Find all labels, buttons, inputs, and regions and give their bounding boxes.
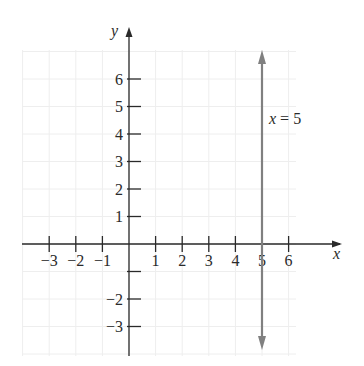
x-axis-label: x (332, 245, 340, 262)
x-tick-label: 6 (285, 252, 293, 269)
line-label: x = 5 (268, 110, 301, 127)
ticks (49, 79, 288, 327)
y-tick-label: 2 (115, 181, 123, 198)
x-tick-label: −1 (94, 252, 111, 269)
coordinate-plane: −3−2−1123456−3−2123456 y x x = 5 (0, 0, 364, 366)
series-vertical-line (258, 50, 266, 350)
x-tick-label: −2 (67, 252, 84, 269)
arrow-up-icon (258, 50, 266, 64)
y-tick-label: 6 (115, 71, 123, 88)
y-axis-label: y (109, 22, 119, 40)
tick-labels: −3−2−1123456−3−2123456 (41, 71, 293, 336)
x-tick-label: 4 (231, 252, 239, 269)
y-tick-label: 1 (115, 208, 123, 225)
arrow-down-icon (258, 336, 266, 350)
x-tick-label: 3 (205, 252, 213, 269)
x-tick-label: 2 (178, 252, 186, 269)
grid (22, 50, 296, 356)
y-axis-arrow-icon (126, 27, 133, 37)
y-tick-label: 5 (115, 98, 123, 115)
y-tick-label: −3 (106, 318, 123, 335)
y-tick-label: 4 (115, 126, 123, 143)
x-tick-label: 1 (152, 252, 160, 269)
y-tick-label: 3 (115, 153, 123, 170)
x-tick-label: −3 (41, 252, 58, 269)
y-tick-label: −2 (106, 291, 123, 308)
